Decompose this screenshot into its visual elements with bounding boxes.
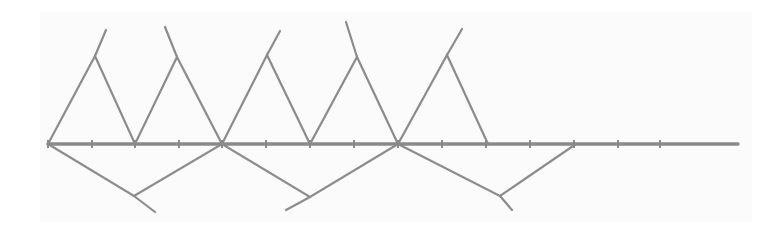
- upper-ray-2: [165, 27, 177, 57]
- diagram-canvas: [0, 0, 781, 228]
- lower-ray-2: [286, 197, 310, 210]
- upper-ray-5: [447, 29, 462, 55]
- upper-ray-3: [267, 31, 280, 55]
- zigzag-diagram: [0, 0, 781, 228]
- lower-ray-1: [134, 196, 155, 212]
- lower-ray-3: [500, 196, 512, 210]
- lower-zigzag: [48, 144, 576, 212]
- upper-ray-4: [346, 22, 357, 57]
- lower-zigzag-line: [48, 144, 576, 197]
- upper-zigzag: [48, 22, 488, 144]
- upper-ray-1: [95, 30, 106, 56]
- upper-zigzag-line: [48, 55, 488, 144]
